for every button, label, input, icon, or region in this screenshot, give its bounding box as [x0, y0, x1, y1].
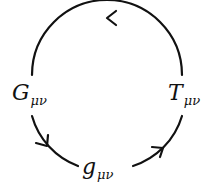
- node-g-label: gμν: [82, 156, 113, 178]
- node-T-label: Tμν: [168, 82, 200, 104]
- node-g-symbol: g: [82, 154, 96, 179]
- node-G-symbol: G: [12, 80, 30, 105]
- node-T-symbol: T: [168, 80, 183, 105]
- node-G-label: Gμν: [12, 82, 47, 104]
- edge-T-to-G: [32, 0, 182, 75]
- edge-g-to-T: [133, 116, 182, 166]
- node-T-subscript: μν: [184, 93, 200, 108]
- node-G-subscript: μν: [31, 93, 47, 108]
- edge-G-to-g: [32, 116, 78, 166]
- arrow-left-icon: [107, 11, 116, 25]
- node-g-subscript: μν: [97, 167, 113, 182]
